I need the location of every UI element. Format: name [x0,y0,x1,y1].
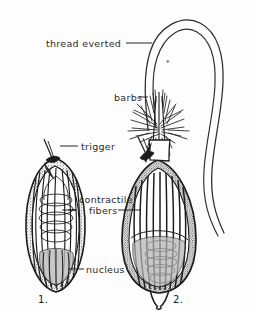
capsule-2-group [122,137,196,309]
label-contractile-fibers-line1: contractile [79,194,133,205]
label-barbs: barbs [114,92,142,103]
nematocyst-figure: * [0,0,257,313]
svg-text:*: * [166,59,170,67]
label-trigger: trigger [81,141,115,152]
figure-number-1: 1. [38,294,48,305]
label-nucleus: nucleus [86,264,125,275]
figure-number-2: 2. [173,294,183,305]
capsule-2-neck [149,140,170,161]
diagram-illustration: * [0,0,257,313]
label-thread-everted: thread everted [46,38,121,49]
label-contractile-fibers-line2: fibers [89,205,118,216]
asterisk-mark: * [166,59,170,67]
